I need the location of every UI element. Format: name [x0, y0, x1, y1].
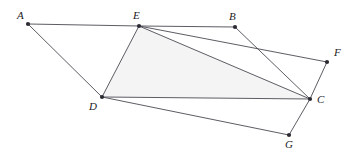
edge-E-B [139, 26, 235, 27]
vertex-dot-D [100, 95, 104, 99]
vertex-dot-C [308, 97, 312, 101]
vertex-label-B: B [229, 11, 236, 22]
vertex-dot-E [137, 24, 141, 28]
edge-A-E [28, 24, 139, 26]
vertex-dot-G [287, 133, 291, 137]
vertex-label-A: A [17, 10, 24, 21]
vertex-dot-B [233, 25, 237, 29]
edge-A-D [28, 24, 102, 97]
figure-svg [0, 0, 360, 158]
geometry-figure: AEBFCDG [0, 0, 360, 158]
vertex-label-D: D [89, 101, 97, 112]
vertex-label-F: F [334, 47, 341, 58]
vertex-label-C: C [317, 94, 324, 105]
vertex-label-G: G [285, 139, 293, 150]
edge-C-G [289, 99, 310, 135]
edge-D-G [102, 97, 289, 135]
vertex-dot-A [26, 22, 30, 26]
vertex-dot-F [325, 60, 329, 64]
vertex-label-E: E [133, 10, 140, 21]
